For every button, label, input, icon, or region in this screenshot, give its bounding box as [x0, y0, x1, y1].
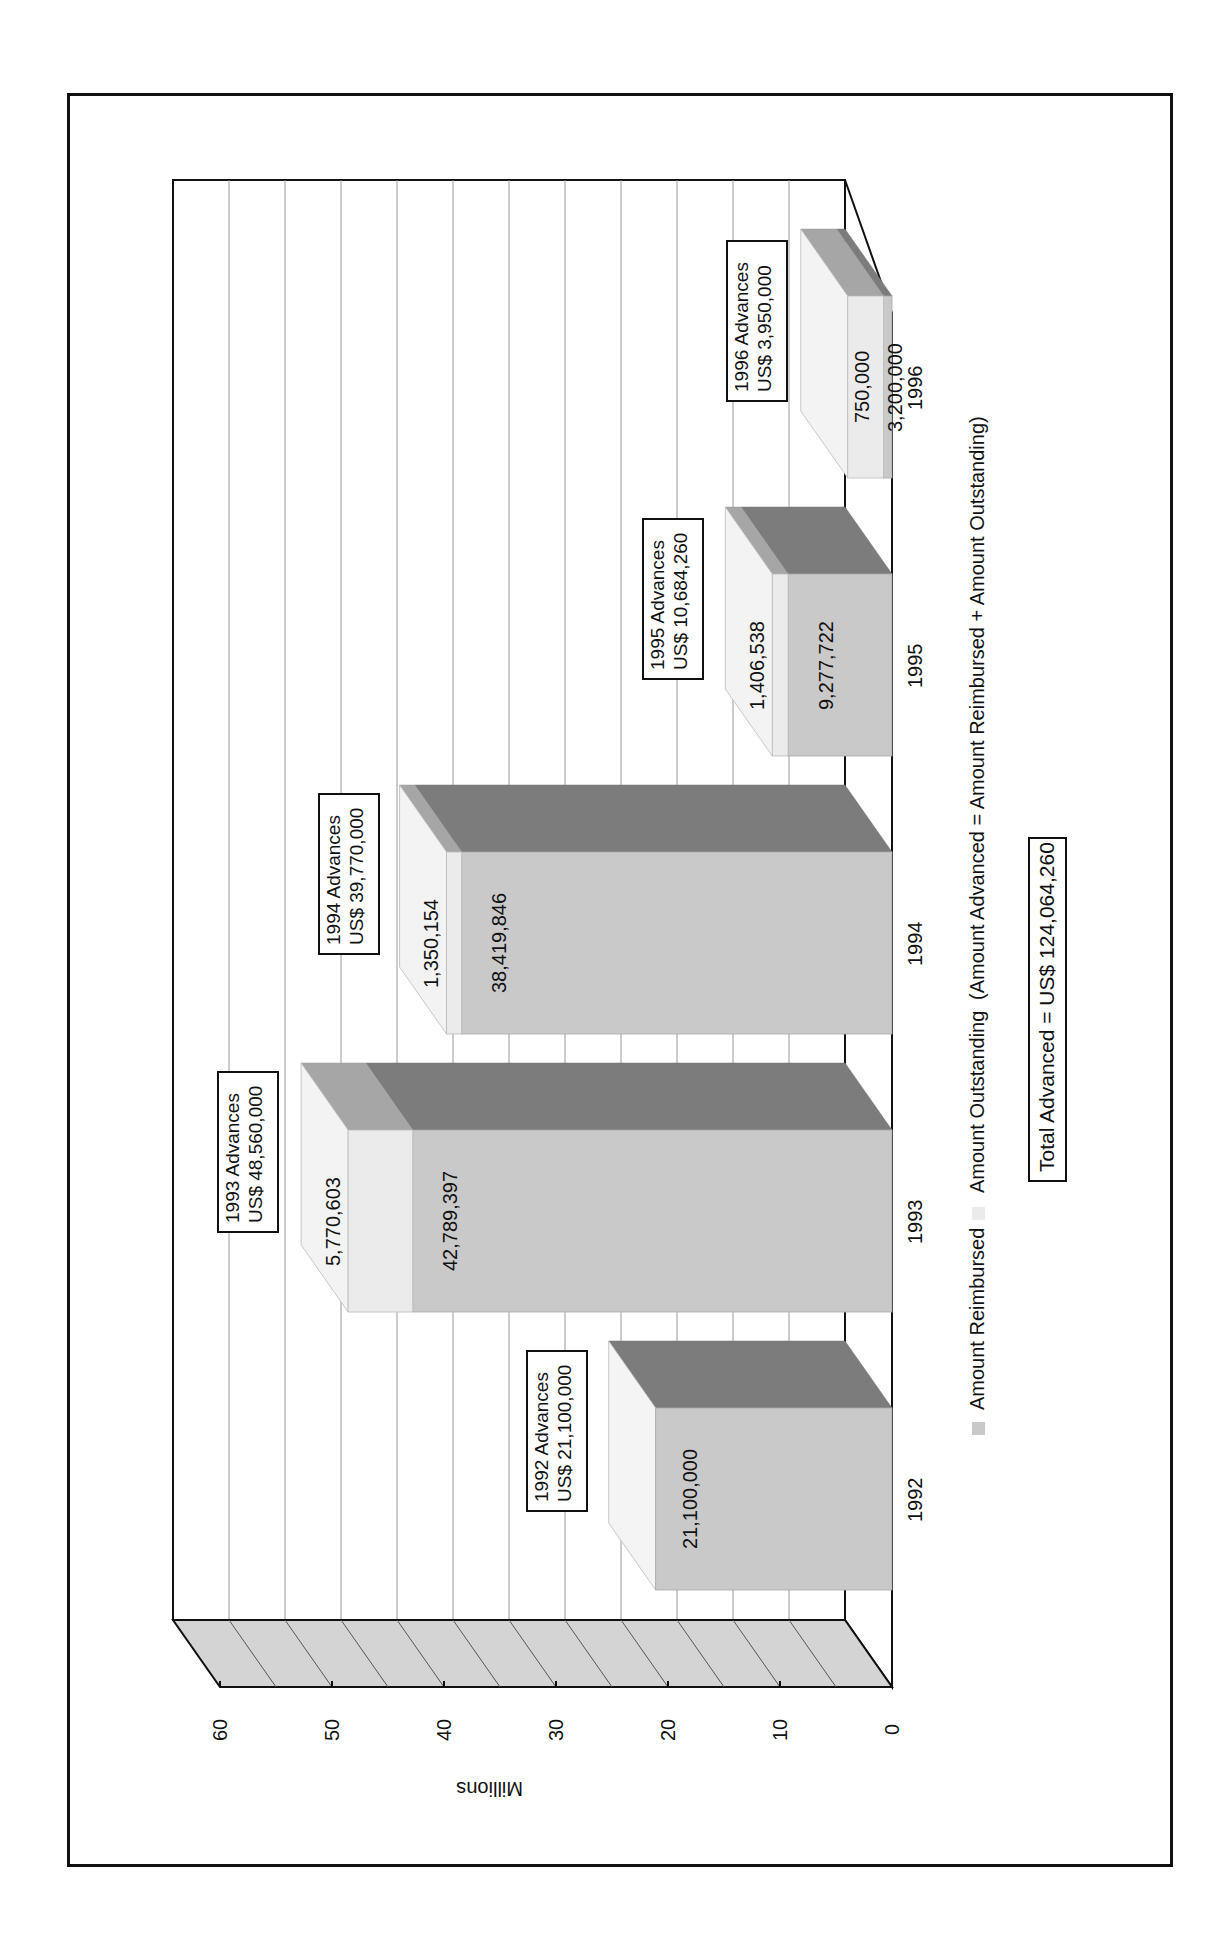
advances-year-line: 1995 Advances [646, 528, 669, 670]
segment-label-reimbursed: 42,789,397 [439, 1171, 462, 1271]
advances-annotation-box: 1996 AdvancesUS$ 3,950,000 [726, 240, 788, 402]
advances-year-line: 1993 Advances [221, 1081, 244, 1223]
y-tick-label: 40 [433, 1719, 456, 1741]
advances-year-line: 1996 Advances [730, 250, 753, 392]
segment-label-outstanding: 5,770,603 [322, 1177, 345, 1266]
y-tick-label: 0 [881, 1724, 904, 1735]
segment-label-outstanding: 1,406,538 [746, 621, 769, 710]
segment-label-reimbursed: 21,100,000 [679, 1449, 702, 1549]
bar-front-outstanding [772, 574, 788, 756]
category-label: 1993 [904, 1199, 927, 1244]
legend-swatch-outstanding [972, 1207, 985, 1220]
bar-front-outstanding [447, 852, 462, 1034]
bar-front-reimbursed [413, 1130, 892, 1312]
total-advanced-box: Total Advanced = US$ 124,064,260 [1028, 837, 1067, 1182]
y-axis-title: Millions [456, 1777, 523, 1800]
y-tick-label: 50 [321, 1719, 344, 1741]
y-tick-label: 30 [545, 1719, 568, 1741]
segment-label-outstanding: 1,350,154 [420, 899, 443, 988]
bar-top-reimbursed [415, 785, 892, 852]
segment-label-reimbursed: 38,419,846 [488, 893, 511, 993]
y-tick-label: 60 [209, 1719, 232, 1741]
bar-front-reimbursed [462, 852, 892, 1034]
segment-label-reimbursed: 9,277,722 [815, 621, 838, 710]
y-tick-label: 20 [657, 1719, 680, 1741]
y-tick-label: 10 [769, 1719, 792, 1741]
legend-formula: (Amount Advanced = Amount Reimbursed + A… [966, 416, 989, 1000]
advances-year-line: 1992 Advances [530, 1360, 553, 1502]
advances-amount-line: US$ 21,100,000 [553, 1360, 576, 1502]
advances-annotation-box: 1995 AdvancesUS$ 10,684,260 [642, 518, 704, 680]
legend-label-reimbursed: Amount Reimbursed [966, 1228, 989, 1410]
bar-front-outstanding [348, 1130, 413, 1312]
legend-label-outstanding: Amount Outstanding [966, 1011, 989, 1193]
category-label: 1994 [904, 921, 927, 966]
category-label: 1995 [904, 643, 927, 688]
category-label: 1992 [904, 1477, 927, 1522]
bar-top-reimbursed [366, 1063, 892, 1130]
advances-year-line: 1994 Advances [322, 803, 345, 945]
advances-annotation-box: 1993 AdvancesUS$ 48,560,000 [217, 1071, 279, 1233]
advances-amount-line: US$ 48,560,000 [244, 1081, 267, 1223]
advances-amount-line: US$ 10,684,260 [669, 528, 692, 670]
legend-swatch-reimbursed [972, 1422, 985, 1435]
advances-annotation-box: 1992 AdvancesUS$ 21,100,000 [526, 1350, 588, 1512]
advances-annotation-box: 1994 AdvancesUS$ 39,770,000 [318, 793, 380, 955]
advances-amount-line: US$ 3,950,000 [753, 250, 776, 392]
segment-label-reimbursed: 750,000 [851, 351, 874, 423]
bar-front-reimbursed [788, 574, 892, 756]
category-label: 1996 [904, 365, 927, 410]
advances-amount-line: US$ 39,770,000 [345, 803, 368, 945]
bar-top-reimbursed [609, 1341, 892, 1408]
